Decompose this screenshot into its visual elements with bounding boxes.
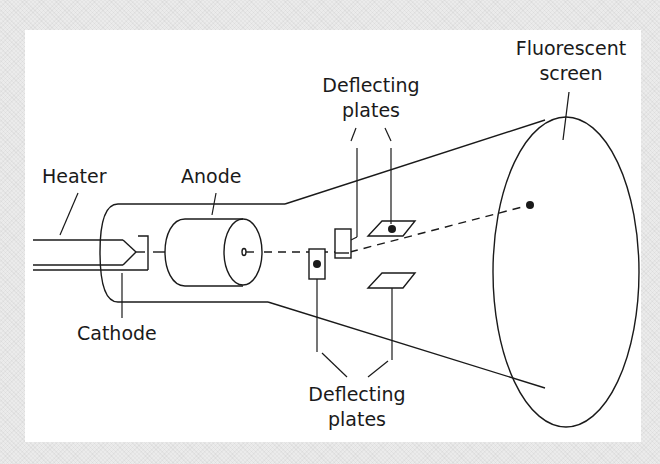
fluorescent-screen [493,117,639,427]
fluorescent-screen-line1: Fluorescent [508,36,634,61]
fluorescent-screen-label: Fluorescent screen [508,36,634,86]
heater-label-text: Heater [42,165,107,187]
deflecting-plates-bottom-line2: plates [302,407,412,432]
cathode [136,236,148,270]
heater-label: Heater [42,164,107,189]
heater-wires [33,240,148,270]
deflecting-plates-top-line1: Deflecting [316,73,426,98]
deflecting-plates-top-label: Deflecting plates [316,73,426,123]
anode-label: Anode [181,164,241,189]
deflecting-plates-horizontal [368,221,415,288]
deflecting-plates-bottom-line1: Deflecting [302,382,412,407]
deflecting-plates-vertical [309,229,351,279]
beam-spot [526,201,534,209]
anode-cylinder [153,219,262,286]
anode-label-text: Anode [181,165,241,187]
cathode-label: Cathode [77,321,157,346]
fluorescent-screen-line2: screen [508,61,634,86]
deflecting-plates-bottom-label: Deflecting plates [302,382,412,432]
deflecting-plates-top-line2: plates [316,98,426,123]
cathode-label-text: Cathode [77,322,157,344]
